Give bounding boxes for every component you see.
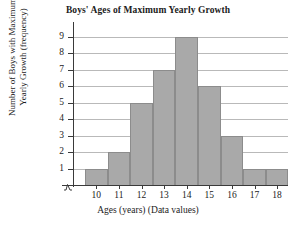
y-axis-tick-label: 7	[50, 65, 64, 75]
y-axis-tick-label: 2	[50, 147, 64, 157]
y-axis-title: Number of Boys with Maximum Yearly Growt…	[3, 0, 33, 137]
bar	[198, 86, 221, 185]
y-axis-title-line2: Yearly Growth (frequency)	[18, 0, 30, 116]
axis-break-icon	[63, 178, 75, 191]
x-axis-tick	[142, 185, 143, 189]
y-axis-tick-label: 4	[50, 114, 64, 124]
chart-title: Boys' Ages of Maximum Yearly Growth	[0, 5, 296, 15]
x-axis-tick-label: 15	[198, 190, 220, 200]
x-axis-title: Ages (years) (Data values)	[0, 205, 296, 215]
x-axis-tick	[164, 185, 165, 189]
bar	[221, 136, 244, 185]
x-axis-tick	[255, 185, 256, 189]
x-axis-tick	[277, 185, 278, 189]
bar	[85, 169, 108, 185]
x-axis-tick-label: 17	[244, 190, 266, 200]
bar	[266, 169, 289, 185]
y-axis-tick-label: 1	[50, 164, 64, 174]
x-axis-tick-label: 12	[131, 190, 153, 200]
y-axis-tick-label: 8	[50, 48, 64, 58]
x-axis-tick-label: 13	[153, 190, 175, 200]
x-axis-tick-label: 18	[266, 190, 288, 200]
y-axis-tick-label: 5	[50, 98, 64, 108]
x-axis-tick	[209, 185, 210, 189]
x-axis-tick-label: 11	[108, 190, 130, 200]
bar	[153, 70, 176, 185]
x-axis-tick-label: 16	[221, 190, 243, 200]
y-axis-title-line1: Number of Boys with Maximum	[7, 0, 19, 116]
bar	[130, 103, 153, 185]
bars-container	[73, 24, 288, 185]
bar	[175, 37, 198, 185]
y-axis-tick-label: 9	[50, 32, 64, 42]
bar	[243, 169, 266, 185]
x-axis-tick-label: 14	[176, 190, 198, 200]
y-axis-tick-label: 3	[50, 131, 64, 141]
histogram-chart: Boys' Ages of Maximum Yearly Growth Numb…	[0, 0, 296, 231]
x-axis-tick	[232, 185, 233, 189]
x-axis-tick	[119, 185, 120, 189]
x-axis-tick-label: 10	[85, 190, 107, 200]
x-axis-tick	[96, 185, 97, 189]
bar	[108, 152, 131, 185]
x-axis-tick	[187, 185, 188, 189]
y-axis-tick-label: 6	[50, 81, 64, 91]
